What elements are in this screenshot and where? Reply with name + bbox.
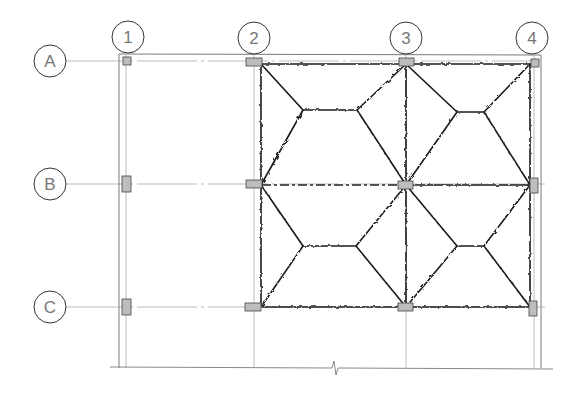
columns xyxy=(122,57,539,316)
break-line xyxy=(110,361,553,375)
column-a1[interactable] xyxy=(123,57,131,65)
column-b4[interactable] xyxy=(530,178,538,193)
bubble-1: 1 xyxy=(112,21,144,53)
column-a3[interactable] xyxy=(399,58,414,66)
bubble-a: A xyxy=(34,45,66,77)
bubble-3: 3 xyxy=(390,22,422,54)
column-b3[interactable] xyxy=(398,181,413,189)
column-a2[interactable] xyxy=(246,58,262,66)
structural-plan: 1 2 3 4 A B C xyxy=(0,0,580,393)
bubble-4: 4 xyxy=(516,22,548,54)
column-c1[interactable] xyxy=(122,299,131,315)
column-b2[interactable] xyxy=(246,180,262,188)
svg-text:C: C xyxy=(44,298,56,317)
column-a4[interactable] xyxy=(531,59,539,67)
grid-bubbles: 1 2 3 4 A B C xyxy=(34,21,548,323)
svg-text:1: 1 xyxy=(123,28,132,47)
svg-text:3: 3 xyxy=(401,29,410,48)
column-c3[interactable] xyxy=(398,303,413,311)
column-c2[interactable] xyxy=(245,303,261,311)
svg-text:2: 2 xyxy=(249,29,258,48)
column-c4[interactable] xyxy=(529,301,537,316)
bubble-c: C xyxy=(34,291,66,323)
svg-text:A: A xyxy=(44,52,56,71)
grid-lines xyxy=(66,55,545,368)
svg-text:B: B xyxy=(44,175,55,194)
slab-edge xyxy=(119,54,541,368)
bubble-2: 2 xyxy=(238,22,270,54)
bubble-b: B xyxy=(34,168,66,200)
column-b1[interactable] xyxy=(122,176,131,192)
svg-text:4: 4 xyxy=(527,29,536,48)
